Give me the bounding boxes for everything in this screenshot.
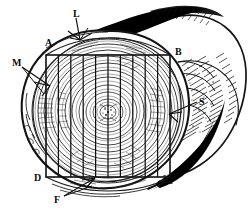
label-f: F: [54, 195, 60, 205]
label-c: C: [166, 176, 173, 186]
label-a: A: [45, 38, 52, 48]
label-b: B: [175, 47, 182, 57]
label-m: M: [12, 58, 22, 68]
log-illustration-svg: [0, 0, 250, 221]
label-s: S: [199, 97, 205, 107]
label-l: L: [73, 9, 80, 19]
label-d: D: [34, 173, 41, 183]
log-cross-section-figure: L A B M S D C F: [0, 0, 250, 221]
